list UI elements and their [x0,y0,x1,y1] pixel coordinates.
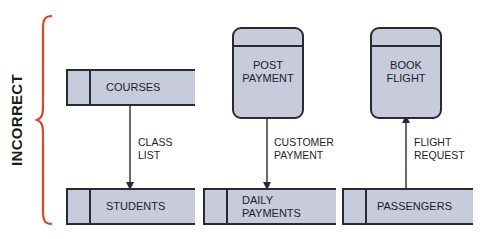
process-header-band [372,45,440,47]
curly-bracket [37,16,52,224]
process-label: POST PAYMENT [234,59,302,85]
data-store-label: PASSENGERS [377,190,452,223]
process-label-line: PAYMENT [234,72,302,85]
flow-label-line: LIST [138,149,172,162]
data-store-label-line: DAILY [242,194,301,207]
process-header-band [234,45,302,47]
process-post-payment: POST PAYMENT [232,27,304,119]
process-label-line: POST [234,59,302,72]
flow-label-customer-payment: CUSTOMER PAYMENT [274,136,334,162]
flow-label-line: PAYMENT [274,149,334,162]
data-store-divider [365,190,367,223]
data-store-divider [89,190,91,223]
data-store-label: DAILY PAYMENTS [242,190,301,223]
data-store-courses: COURSES [66,69,195,106]
process-label: BOOK FLIGHT [372,59,440,85]
data-store-label: COURSES [106,71,160,104]
flow-label-line: FLIGHT [414,136,465,149]
data-store-students: STUDENTS [66,188,195,225]
process-label-line: BOOK [372,59,440,72]
data-store-passengers: PASSENGERS [342,188,473,225]
data-store-divider [89,71,91,104]
flow-label-line: CUSTOMER [274,136,334,149]
data-store-label: STUDENTS [106,190,165,223]
flow-label-line: REQUEST [414,149,465,162]
data-store-label-line: PAYMENTS [242,207,301,220]
process-label-line: FLIGHT [372,72,440,85]
flow-label-line: CLASS [138,136,172,149]
side-label-incorrect: INCORRECT [8,60,32,180]
data-store-divider [226,190,228,223]
flow-label-flight-request: FLIGHT REQUEST [414,136,465,162]
data-store-daily-payments: DAILY PAYMENTS [203,188,336,225]
flow-label-class-list: CLASS LIST [138,136,172,162]
process-book-flight: BOOK FLIGHT [370,27,442,119]
